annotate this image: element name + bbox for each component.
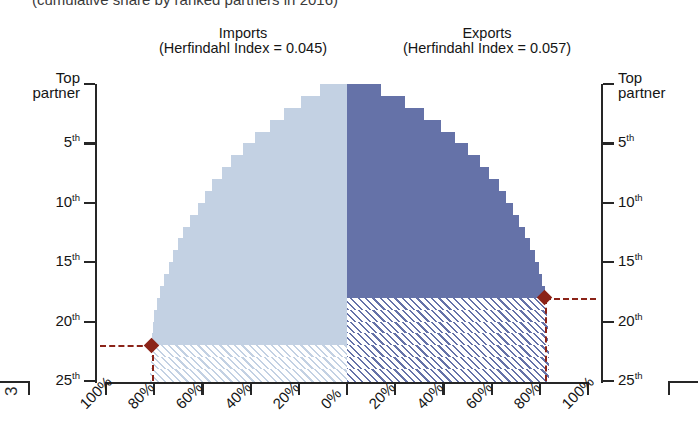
bar-imports-rank-1 bbox=[320, 84, 347, 97]
imports-title: Imports bbox=[128, 26, 358, 41]
bar-exports-rank-6 bbox=[347, 143, 468, 156]
y-tick-l-5 bbox=[84, 142, 95, 144]
chart-plot-area bbox=[106, 84, 588, 381]
bar-imports-rank-24 bbox=[151, 357, 347, 370]
exports-subtitle: (Herfindahl Index = 0.057) bbox=[372, 41, 602, 56]
bar-imports-rank-25 bbox=[150, 369, 347, 382]
y-tick-r-25 bbox=[603, 380, 614, 382]
y-label-l-25: 25th bbox=[14, 371, 80, 387]
bar-exports-rank-3 bbox=[347, 108, 424, 121]
bar-imports-rank-14 bbox=[178, 238, 347, 251]
bar-exports-rank-15 bbox=[347, 250, 535, 263]
y-tick-l-20 bbox=[84, 321, 95, 323]
y-tick-r-5 bbox=[603, 142, 614, 144]
x-label-5: 0% bbox=[317, 385, 344, 412]
bar-imports-rank-21 bbox=[153, 322, 347, 335]
bar-imports-rank-10 bbox=[205, 191, 347, 204]
bar-imports-rank-15 bbox=[173, 250, 347, 263]
caption-clip: (cumulative share by ranked partners in … bbox=[0, 0, 698, 12]
exports-threshold-guide-vertical bbox=[545, 298, 547, 381]
bar-imports-rank-7 bbox=[231, 155, 347, 168]
bar-exports-rank-1 bbox=[347, 84, 381, 97]
y-tick-l-1 bbox=[84, 83, 95, 85]
bar-imports-rank-5 bbox=[255, 132, 347, 145]
bar-imports-rank-3 bbox=[284, 108, 347, 121]
chart-caption: (cumulative share by ranked partners in … bbox=[32, 0, 338, 8]
y-axis-right-line bbox=[601, 84, 603, 383]
y-tick-r-15 bbox=[603, 261, 614, 263]
x-label-0: 100% bbox=[76, 373, 115, 412]
bar-imports-rank-18 bbox=[160, 286, 347, 299]
y-tick-r-1 bbox=[603, 83, 614, 85]
exports-threshold-guide-horizontal bbox=[545, 298, 596, 300]
bar-imports-rank-20 bbox=[154, 310, 347, 323]
y-label-r-1: Toppartner bbox=[618, 70, 688, 101]
exports-header: Exports (Herfindahl Index = 0.057) bbox=[372, 26, 602, 57]
bar-exports-rank-14 bbox=[347, 238, 530, 251]
imports-header: Imports (Herfindahl Index = 0.045) bbox=[128, 26, 358, 57]
bar-exports-rank-24 bbox=[347, 357, 549, 370]
y-label-l-5: 5th bbox=[14, 133, 80, 149]
y-label-r-10: 10th bbox=[618, 193, 688, 209]
bar-exports-rank-12 bbox=[347, 215, 519, 228]
y-label-r-20: 20th bbox=[618, 312, 688, 328]
bar-exports-rank-7 bbox=[347, 155, 480, 168]
y-tick-r-20 bbox=[603, 321, 614, 323]
bar-exports-rank-9 bbox=[347, 179, 499, 192]
bar-imports-rank-17 bbox=[164, 274, 347, 287]
bar-exports-rank-22 bbox=[347, 333, 548, 346]
y-axis-left-line bbox=[95, 84, 97, 383]
bar-exports-rank-23 bbox=[347, 345, 549, 358]
bar-imports-rank-19 bbox=[157, 298, 347, 311]
imports-subtitle: (Herfindahl Index = 0.045) bbox=[128, 41, 358, 56]
bar-imports-rank-16 bbox=[169, 262, 347, 275]
bar-imports-rank-11 bbox=[198, 203, 347, 216]
y-label-r-25: 25th bbox=[618, 371, 688, 387]
x-tick-5 bbox=[346, 383, 348, 395]
bar-imports-rank-9 bbox=[212, 179, 347, 192]
bar-exports-rank-25 bbox=[347, 369, 549, 382]
y-tick-l-10 bbox=[84, 202, 95, 204]
exports-title: Exports bbox=[372, 26, 602, 41]
bar-exports-rank-2 bbox=[347, 96, 405, 109]
bar-imports-rank-23 bbox=[151, 345, 347, 358]
bar-imports-rank-13 bbox=[183, 227, 347, 240]
bar-imports-rank-6 bbox=[243, 143, 347, 156]
y-label-l-20: 20th bbox=[14, 312, 80, 328]
y-label-l-10: 10th bbox=[14, 193, 80, 209]
bar-exports-rank-4 bbox=[347, 120, 441, 133]
y-label-r-15: 15th bbox=[618, 252, 688, 268]
bar-exports-rank-20 bbox=[347, 310, 547, 323]
bar-exports-rank-16 bbox=[347, 262, 539, 275]
page-number: 3 bbox=[2, 387, 22, 396]
bar-imports-rank-4 bbox=[270, 120, 347, 133]
y-tick-l-15 bbox=[84, 261, 95, 263]
y-label-l-1: Toppartner bbox=[14, 70, 80, 101]
bar-imports-rank-12 bbox=[190, 215, 347, 228]
bar-imports-rank-22 bbox=[152, 333, 347, 346]
bar-imports-rank-8 bbox=[222, 167, 347, 180]
bar-exports-rank-8 bbox=[347, 167, 489, 180]
bar-exports-rank-13 bbox=[347, 227, 525, 240]
bar-exports-rank-17 bbox=[347, 274, 542, 287]
bar-exports-rank-11 bbox=[347, 203, 513, 216]
y-label-r-5: 5th bbox=[618, 133, 688, 149]
bar-exports-rank-19 bbox=[347, 298, 546, 311]
bar-imports-rank-2 bbox=[301, 96, 347, 109]
y-label-l-15: 15th bbox=[14, 252, 80, 268]
bar-exports-rank-18 bbox=[347, 286, 545, 299]
y-tick-r-10 bbox=[603, 202, 614, 204]
bar-exports-rank-5 bbox=[347, 132, 455, 145]
bar-exports-rank-10 bbox=[347, 191, 506, 204]
bar-exports-rank-21 bbox=[347, 322, 548, 335]
